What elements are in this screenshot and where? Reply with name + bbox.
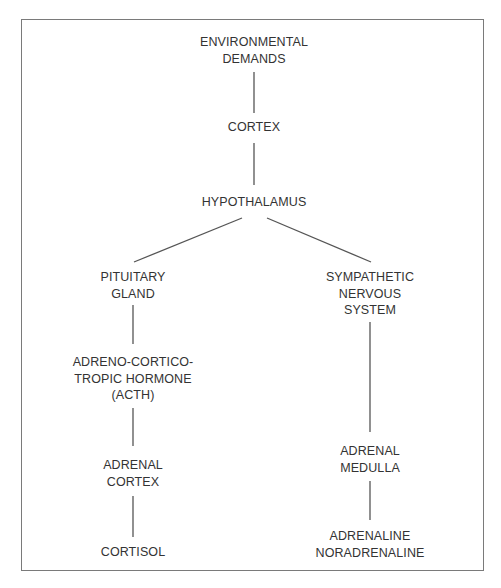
node-label-line: ADRENAL	[340, 443, 400, 460]
node-label-line: GLAND	[100, 286, 165, 303]
node-label-line: NORADRENALINE	[316, 545, 425, 562]
node-label-line: CORTEX	[103, 474, 163, 491]
node-label-line: SYMPATHETIC	[326, 269, 414, 286]
edge-hypothalamus-to-sympathetic	[267, 218, 371, 262]
node-adrenaline-noradrenaline: ADRENALINE NORADRENALINE	[316, 528, 425, 561]
node-label-line: ADRENO-CORTICO-	[73, 354, 194, 371]
node-label-line: ADRENALINE	[316, 528, 425, 545]
node-label-line: ENVIRONMENTAL	[200, 34, 308, 51]
node-label-line: PITUITARY	[100, 269, 165, 286]
node-label-line: ADRENAL	[103, 457, 163, 474]
edge-hypothalamus-to-pituitary	[134, 218, 242, 262]
connector-lines	[0, 0, 501, 588]
node-label-line: DEMANDS	[200, 51, 308, 68]
node-label-line: SYSTEM	[326, 302, 414, 319]
node-label-line: (ACTH)	[73, 387, 194, 404]
node-label-line: CORTEX	[228, 119, 280, 136]
node-label-line: HYPOTHALAMUS	[202, 194, 307, 211]
node-label-line: NERVOUS	[326, 286, 414, 303]
node-cortisol: CORTISOL	[101, 544, 165, 561]
node-label-line: CORTISOL	[101, 544, 165, 561]
node-pituitary-gland: PITUITARY GLAND	[100, 269, 165, 302]
node-environmental-demands: ENVIRONMENTAL DEMANDS	[200, 34, 308, 67]
node-sympathetic-nervous-system: SYMPATHETIC NERVOUS SYSTEM	[326, 269, 414, 319]
node-label-line: MEDULLA	[340, 460, 400, 477]
node-adrenal-cortex: ADRENAL CORTEX	[103, 457, 163, 490]
node-cortex: CORTEX	[228, 119, 280, 136]
node-adrenal-medulla: ADRENAL MEDULLA	[340, 443, 400, 476]
node-label-line: TROPIC HORMONE	[73, 371, 194, 388]
node-acth: ADRENO-CORTICO- TROPIC HORMONE (ACTH)	[73, 354, 194, 404]
node-hypothalamus: HYPOTHALAMUS	[202, 194, 307, 211]
